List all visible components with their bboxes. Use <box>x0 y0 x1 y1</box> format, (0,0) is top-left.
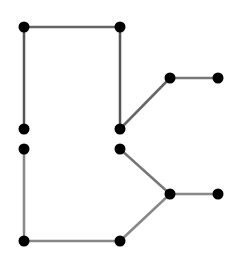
node-n6 <box>213 73 224 84</box>
edge-n8-n9 <box>120 149 170 194</box>
node-n4 <box>115 124 126 135</box>
node-n5 <box>165 73 176 84</box>
node-n1 <box>19 22 30 33</box>
node-n11 <box>19 236 30 247</box>
node-n8 <box>115 144 126 155</box>
edge-n12-n9 <box>120 194 170 241</box>
graph-diagram <box>0 0 238 254</box>
node-n3 <box>19 124 30 135</box>
node-n2 <box>115 22 126 33</box>
node-n10 <box>213 189 224 200</box>
edge-n4-n5 <box>120 78 170 129</box>
node-n9 <box>165 189 176 200</box>
node-n12 <box>115 236 126 247</box>
node-n7 <box>19 144 30 155</box>
